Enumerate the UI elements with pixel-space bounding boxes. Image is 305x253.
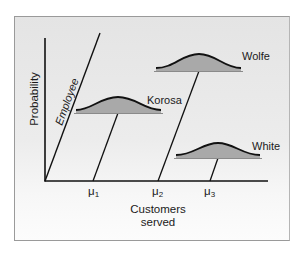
wolfe-label: Wolfe [242,50,270,62]
korosa-distribution: Korosa [74,94,183,181]
mean-labels: μ1 μ2 μ3 [88,185,216,199]
employee-axis-label: Employee [53,77,81,127]
wolfe-stem [158,71,199,181]
white-curve-fill [176,143,260,158]
white-label: White [252,140,280,152]
x-axis-label-line1: Customers [130,203,186,215]
white-distribution: White [174,140,280,181]
wolfe-distribution: Wolfe [154,50,270,181]
x-axis-label-line2: served [141,216,176,228]
wolfe-curve-fill [156,54,241,71]
y-axis-label: Probability [28,72,40,126]
mu3-label: μ3 [204,185,216,199]
korosa-label: Korosa [147,94,183,106]
mu1-label: μ1 [88,185,100,199]
korosa-stem [93,113,118,181]
distribution-diagram: Employee Probability Korosa Wolfe White … [0,0,305,253]
mu2-label: μ2 [152,185,164,199]
white-stem [210,158,218,181]
